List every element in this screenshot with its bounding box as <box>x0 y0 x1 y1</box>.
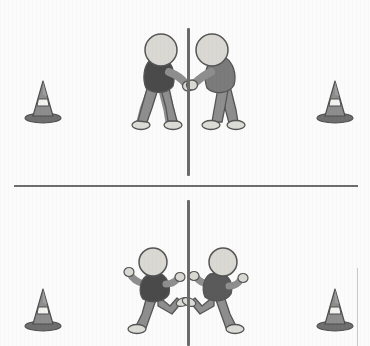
cone-top-left <box>22 78 64 124</box>
cone-bottom-right <box>314 286 356 332</box>
figure-bottom-right <box>184 248 256 343</box>
panel-top <box>0 0 370 185</box>
pole-top <box>187 28 190 176</box>
figure-bottom-left <box>122 248 192 343</box>
figure-top-right <box>186 30 252 135</box>
panel-bottom <box>0 186 370 346</box>
cone-bottom-left <box>22 286 64 332</box>
cone-top-right <box>314 78 356 124</box>
pole-bottom <box>187 200 190 346</box>
illustration-stage <box>0 0 370 346</box>
